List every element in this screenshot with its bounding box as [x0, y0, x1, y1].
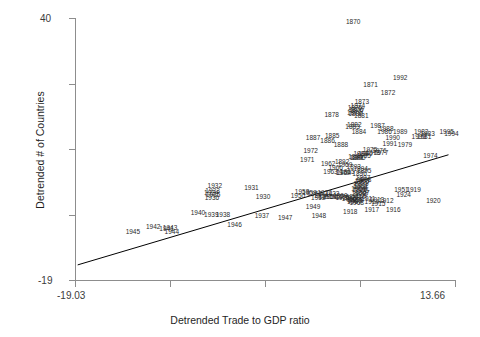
data-point-label: 1936: [205, 195, 219, 202]
data-point-label: 1870: [346, 19, 360, 26]
data-point-label: 1918: [343, 208, 357, 215]
data-point-label: 1974: [423, 152, 437, 159]
data-point-label: 1972: [304, 148, 318, 155]
data-point-label: 1940: [191, 210, 205, 217]
data-point-label: 1881: [354, 112, 368, 119]
data-point-label: 1993: [412, 134, 426, 141]
x-axis-tick: [455, 281, 456, 287]
data-point-label: 1968: [349, 199, 363, 206]
data-point-label: 1930: [256, 194, 270, 201]
y-axis-min-label: -19: [38, 275, 52, 286]
data-point-label: 1917: [365, 207, 379, 214]
x-axis-tick: [360, 281, 361, 287]
data-point-label: 1888: [334, 142, 348, 149]
data-point-label: 1948: [312, 213, 326, 220]
scatter-chart: 40 -19 -19.03 13.66 Detrended Trade to G…: [0, 0, 480, 337]
data-point-label: 1912: [379, 198, 393, 205]
data-point-label: 1878: [324, 112, 338, 119]
data-point-label: 1916: [386, 207, 400, 214]
data-point-label: 1992: [393, 75, 407, 82]
data-point-label: 1971: [300, 157, 314, 164]
data-point-label: 1871: [363, 81, 377, 88]
data-point-label: 1887: [306, 135, 320, 142]
data-point-label: 1945: [126, 229, 140, 236]
y-axis-title: Detrended # of Countries: [34, 30, 46, 270]
x-axis-tick: [265, 281, 266, 287]
data-point-label: 1886: [320, 138, 334, 145]
data-point-label: 1884: [352, 129, 366, 136]
x-axis-max-label: 13.66: [420, 290, 445, 301]
data-point-label: 1970: [335, 170, 349, 177]
x-axis-min-label: -19.03: [57, 290, 85, 301]
data-point-label: 1942: [146, 224, 160, 231]
data-point-label: 1924: [397, 191, 411, 198]
data-point-label: 1946: [227, 222, 241, 229]
y-axis-max-label: 40: [40, 13, 51, 24]
data-point-label: 1872: [381, 89, 395, 96]
x-axis-tick: [75, 281, 76, 287]
data-point-label: 1931: [244, 185, 258, 192]
plot-area: 1870199218711872187318741875187618771879…: [75, 18, 455, 280]
x-axis-title: Detrended Trade to GDP ratio: [0, 314, 480, 326]
x-axis-tick: [170, 281, 171, 287]
data-point-label: 1994: [444, 131, 458, 138]
data-point-label: 1937: [255, 213, 269, 220]
data-point-label: 1944: [165, 228, 179, 235]
data-point-label: 1950: [291, 193, 305, 200]
data-point-label: 1947: [278, 215, 292, 222]
data-point-label: 1920: [426, 198, 440, 205]
data-point-label: 1949: [306, 203, 320, 210]
data-point-label: 1979: [398, 142, 412, 149]
data-point-label: 1939: [204, 212, 218, 219]
